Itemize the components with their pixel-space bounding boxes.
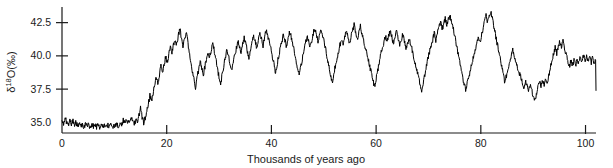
x-tick-label-0: 0	[59, 137, 65, 149]
y-axis-title-superscript: 18	[4, 78, 13, 86]
x-tick-label-80: 80	[475, 137, 487, 149]
y-axis-title-unit: O(‰)	[5, 51, 17, 78]
x-tick-label-100: 100	[577, 137, 595, 149]
y-tick-label-40.0: 40.0	[31, 49, 52, 61]
y-tick-label-35.0: 35.0	[31, 116, 52, 128]
delta-18o-line-chart: 020406080100 35.037.540.042.5 Thousands …	[0, 0, 613, 168]
y-tick-label-37.5: 37.5	[31, 83, 52, 95]
chart-figure: 020406080100 35.037.540.042.5 Thousands …	[0, 0, 613, 168]
x-tick-label-40: 40	[266, 137, 278, 149]
x-tick-label-60: 60	[370, 137, 382, 149]
x-axis-title: Thousands of years ago	[247, 153, 365, 165]
x-tick-label-20: 20	[161, 137, 173, 149]
chart-background	[0, 0, 613, 168]
y-tick-label-42.5: 42.5	[31, 16, 52, 28]
